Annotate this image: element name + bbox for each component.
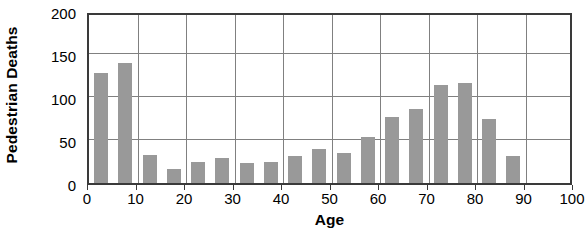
plot-area	[87, 13, 572, 185]
bar	[434, 85, 448, 183]
bar	[240, 163, 254, 183]
bar	[118, 63, 132, 183]
y-axis-tick-label: 200	[51, 5, 76, 22]
bar	[167, 169, 181, 183]
bar	[482, 119, 496, 183]
y-axis-tick-label: 100	[51, 91, 76, 108]
y-axis-tick-labels: 050100150200	[24, 0, 82, 192]
y-axis-title: Pedestrian Deaths	[0, 0, 24, 190]
x-axis-tick-label: 0	[83, 190, 91, 207]
x-axis-tick-label: 10	[127, 190, 144, 207]
bar	[143, 155, 157, 183]
bar	[409, 109, 423, 183]
x-axis-tick-label: 30	[224, 190, 241, 207]
bars-layer	[89, 15, 570, 183]
bar	[458, 83, 472, 183]
bar	[191, 162, 205, 183]
y-axis-tick-label: 150	[51, 48, 76, 65]
bar	[312, 149, 326, 183]
x-axis-tick-label: 60	[370, 190, 387, 207]
x-axis-tick-label: 50	[321, 190, 338, 207]
bar	[288, 156, 302, 183]
y-axis-tick-label: 0	[68, 177, 76, 194]
bar	[361, 137, 375, 183]
x-axis-tick-label: 80	[467, 190, 484, 207]
x-axis-tick-label: 40	[273, 190, 290, 207]
x-axis-tick-label: 20	[176, 190, 193, 207]
y-axis-tick-label: 50	[59, 134, 76, 151]
bar	[506, 156, 520, 183]
bar	[264, 162, 278, 184]
bar	[94, 73, 108, 183]
plot-inner	[89, 15, 570, 183]
bar	[337, 153, 351, 183]
x-axis-tick-label: 100	[559, 190, 584, 207]
bar	[215, 158, 229, 183]
x-axis-tick-labels: 0102030405060708090100	[87, 190, 572, 212]
y-axis-title-label: Pedestrian Deaths	[3, 27, 21, 164]
x-axis-tick-label: 70	[418, 190, 435, 207]
bar	[385, 117, 399, 183]
x-axis-title: Age	[87, 211, 572, 229]
x-axis-tick-label: 90	[515, 190, 532, 207]
